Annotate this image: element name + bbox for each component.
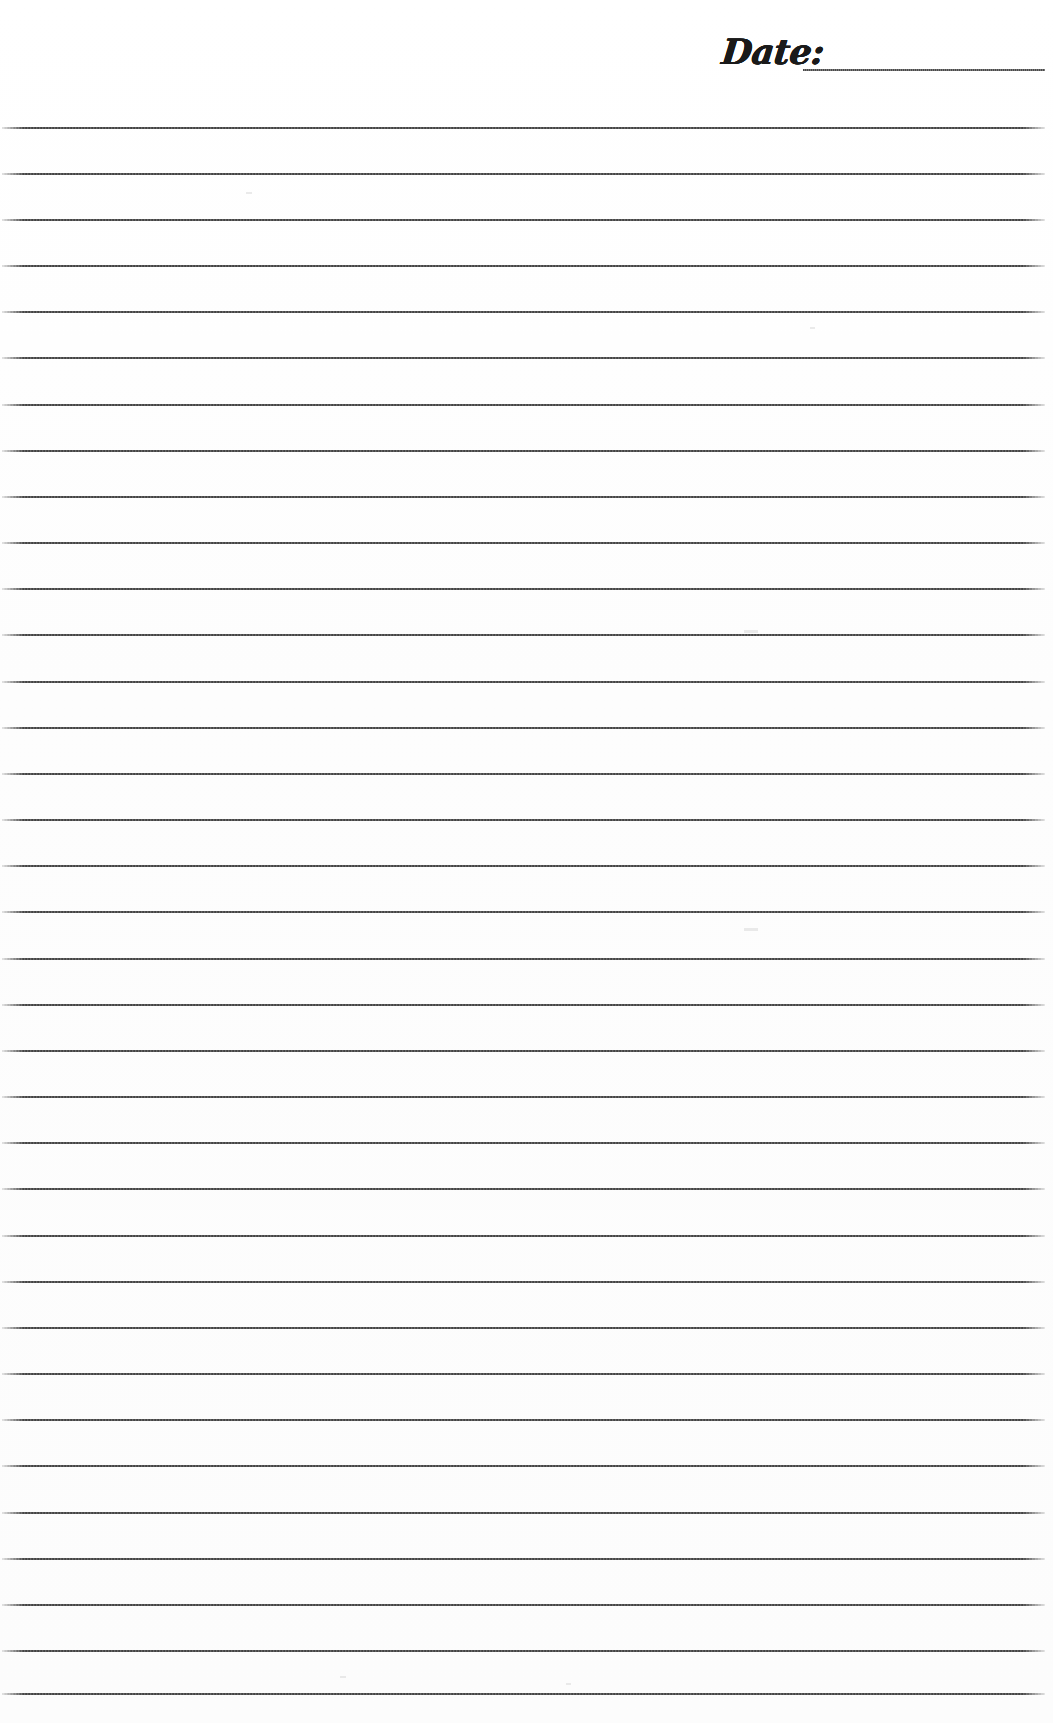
ruled-line xyxy=(2,1188,1045,1190)
ruled-line xyxy=(2,173,1045,175)
ruled-line xyxy=(2,1604,1045,1606)
ruled-line xyxy=(2,311,1045,313)
ruled-line xyxy=(2,727,1045,729)
ruled-line xyxy=(2,1558,1045,1560)
ruled-line xyxy=(2,1512,1045,1514)
ruled-line xyxy=(2,404,1045,406)
ruled-line xyxy=(2,1650,1045,1652)
ruled-line-row[interactable] xyxy=(0,1188,1053,1234)
ruled-line xyxy=(2,219,1045,221)
ruled-line-row[interactable] xyxy=(0,311,1053,357)
ruled-line xyxy=(2,496,1045,498)
ruled-line-row[interactable] xyxy=(0,1465,1053,1511)
ruled-line xyxy=(2,1004,1045,1006)
ruled-line xyxy=(2,681,1045,683)
ruled-line-row[interactable] xyxy=(0,819,1053,865)
ruled-line-row[interactable] xyxy=(0,1142,1053,1188)
ruled-line xyxy=(2,773,1045,775)
ruled-line xyxy=(2,1373,1045,1375)
ruled-line-row[interactable] xyxy=(0,1604,1053,1650)
ruled-line xyxy=(2,1281,1045,1283)
ruled-line xyxy=(2,1419,1045,1421)
ruled-line-row[interactable] xyxy=(0,1419,1053,1465)
ruled-line-row[interactable] xyxy=(0,219,1053,265)
ruled-line-row[interactable] xyxy=(0,542,1053,588)
ruled-line xyxy=(2,1050,1045,1052)
ruled-line-row[interactable] xyxy=(0,404,1053,450)
ruled-line-row[interactable] xyxy=(0,727,1053,773)
ruled-line-row[interactable] xyxy=(0,1512,1053,1558)
ruled-line xyxy=(2,1142,1045,1144)
ruled-line-row[interactable] xyxy=(0,588,1053,634)
ruled-line-row[interactable] xyxy=(0,1096,1053,1142)
ruled-line-row[interactable] xyxy=(0,357,1053,403)
ruled-line-row[interactable] xyxy=(0,911,1053,957)
ruled-line-row[interactable] xyxy=(0,1650,1053,1696)
ruled-line xyxy=(2,1327,1045,1329)
ruled-line xyxy=(2,1235,1045,1237)
ruled-line xyxy=(2,357,1045,359)
ruled-line-row[interactable] xyxy=(0,773,1053,819)
ruled-line-row[interactable] xyxy=(0,496,1053,542)
ruled-line-row[interactable] xyxy=(0,634,1053,680)
ruled-line-row[interactable] xyxy=(0,681,1053,727)
ruled-line xyxy=(2,819,1045,821)
ruled-line-row[interactable] xyxy=(0,1558,1053,1604)
ruled-line xyxy=(2,1693,1045,1695)
ruled-line xyxy=(2,1465,1045,1467)
ruled-line-row[interactable] xyxy=(0,127,1053,173)
ruled-line xyxy=(2,958,1045,960)
ruled-line-row[interactable] xyxy=(0,865,1053,911)
ruled-line-row[interactable] xyxy=(0,1693,1053,1723)
ruled-line xyxy=(2,1096,1045,1098)
ruled-line-row[interactable] xyxy=(0,1373,1053,1419)
ruled-line-row[interactable] xyxy=(0,450,1053,496)
ruled-line-row[interactable] xyxy=(0,1281,1053,1327)
ruled-line xyxy=(2,911,1045,913)
ruled-line xyxy=(2,865,1045,867)
ruled-line-row[interactable] xyxy=(0,958,1053,1004)
ruled-line-row[interactable] xyxy=(0,173,1053,219)
ruled-lines-area xyxy=(0,0,1053,1723)
ruled-line-row[interactable] xyxy=(0,1004,1053,1050)
ruled-line xyxy=(2,450,1045,452)
ruled-line-row[interactable] xyxy=(0,1050,1053,1096)
ruled-line xyxy=(2,265,1045,267)
ruled-line-row[interactable] xyxy=(0,1327,1053,1373)
notebook-page: Date: xyxy=(0,0,1053,1723)
ruled-line xyxy=(2,634,1045,636)
ruled-line xyxy=(2,588,1045,590)
ruled-line-row[interactable] xyxy=(0,1235,1053,1281)
ruled-line xyxy=(2,127,1045,129)
ruled-line-row[interactable] xyxy=(0,265,1053,311)
ruled-line xyxy=(2,542,1045,544)
